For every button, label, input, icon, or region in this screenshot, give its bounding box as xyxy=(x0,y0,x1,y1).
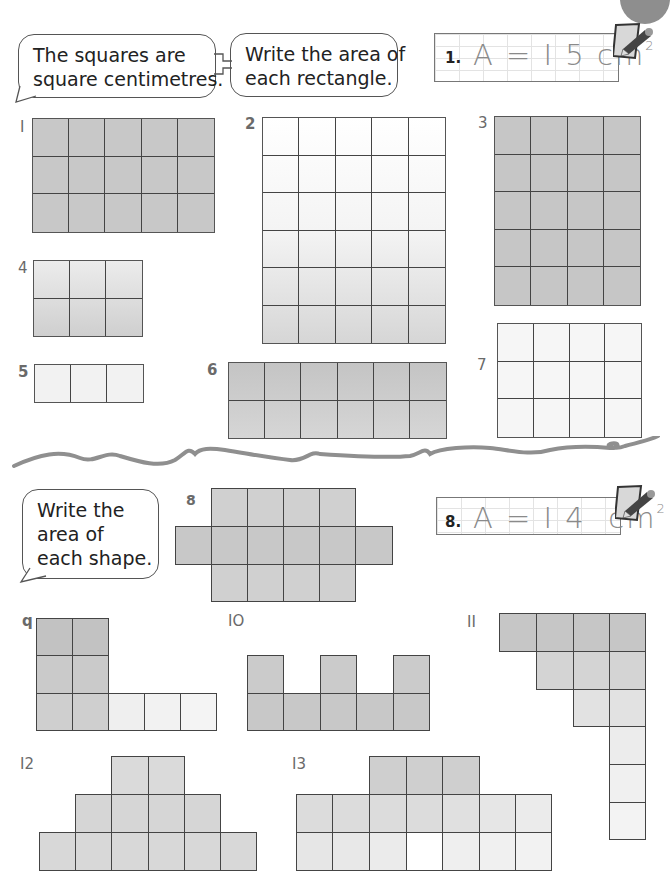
rect-label-4: 4 xyxy=(18,259,28,277)
rectangle-1 xyxy=(32,118,215,233)
shape-label-9: q xyxy=(22,612,33,630)
instruction-text: Write the area of each rectangle. xyxy=(245,42,405,90)
rectangle-4 xyxy=(33,260,143,337)
bubble-connector xyxy=(214,52,232,78)
rect-label-5: 5 xyxy=(18,363,28,381)
unit-power: 2 xyxy=(656,501,666,516)
shape-label-13: I3 xyxy=(292,755,306,773)
example-number: 8. xyxy=(445,513,461,531)
pencil-icon xyxy=(615,484,657,522)
wave-divider xyxy=(10,436,660,476)
example-number: 1. xyxy=(445,49,461,67)
rectangle-2 xyxy=(262,117,446,344)
instruction-text: The squares are square centimetres. xyxy=(33,43,223,91)
shape-label-8: 8 xyxy=(186,492,196,508)
shape-label-11: II xyxy=(467,613,476,631)
pencil-icon xyxy=(613,22,655,60)
bubble-tail xyxy=(18,566,48,588)
rect-label-2: 2 xyxy=(245,115,255,133)
rect-label-7: 7 xyxy=(477,356,487,374)
page-corner-circle xyxy=(620,0,670,24)
shape-label-12: I2 xyxy=(20,755,34,773)
shape-label-10: IO xyxy=(228,612,244,630)
example-answer-box-8: 8. A = I 4 cm2 xyxy=(436,497,621,535)
rectangle-5 xyxy=(34,364,144,403)
rect-label-1: I xyxy=(20,118,24,136)
rectangle-3 xyxy=(494,116,641,306)
instruction-text: Write the area of each shape. xyxy=(37,498,152,570)
instruction-bubble-squares: The squares are square centimetres. xyxy=(18,34,216,98)
rectangle-6 xyxy=(228,362,447,439)
rectangle-7 xyxy=(497,323,642,438)
rect-label-6: 6 xyxy=(207,361,217,379)
bubble-tail xyxy=(14,84,38,106)
rect-label-3: 3 xyxy=(478,114,488,132)
example-answer-box-1: 1. A = I 5 cm2 xyxy=(434,33,619,82)
instruction-bubble-write-area: Write the area of each rectangle. xyxy=(230,33,398,97)
